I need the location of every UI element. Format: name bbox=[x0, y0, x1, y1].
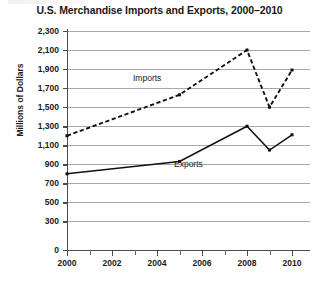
data-point-imports bbox=[66, 134, 69, 137]
data-point-exports bbox=[246, 125, 249, 128]
data-point-exports bbox=[66, 172, 69, 175]
data-point-imports bbox=[246, 49, 249, 52]
data-point-exports bbox=[291, 133, 294, 136]
data-point-imports bbox=[178, 93, 181, 96]
data-point-exports bbox=[268, 149, 271, 152]
series-layer bbox=[0, 0, 319, 283]
data-point-imports bbox=[291, 69, 294, 72]
series-label-imports: Imports bbox=[133, 73, 161, 83]
series-line-imports bbox=[67, 50, 292, 136]
series-label-exports: Exports bbox=[174, 159, 203, 169]
data-point-imports bbox=[268, 106, 271, 109]
